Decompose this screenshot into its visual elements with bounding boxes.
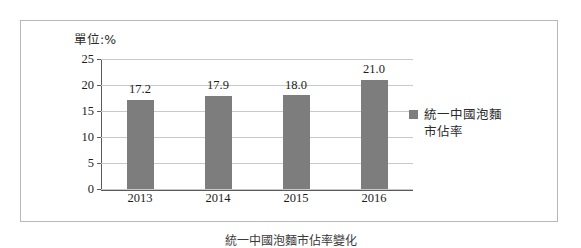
- legend-swatch-icon: [409, 110, 418, 119]
- y-tick-mark: [97, 189, 101, 190]
- y-tick-mark: [97, 59, 101, 60]
- y-tick-mark: [97, 163, 101, 164]
- bar-value-label: 17.2: [129, 83, 151, 96]
- y-tick-label: 5: [88, 157, 94, 170]
- x-tick-label: 2014: [206, 192, 231, 205]
- y-tick-label: 25: [82, 53, 95, 66]
- y-tick-mark: [97, 137, 101, 138]
- bar[interactable]: 17.2: [127, 100, 154, 189]
- figure-caption: 統一中國泡麵市佔率變化: [0, 231, 581, 248]
- plot-area: 2520151050 17.217.918.021.0 201320142015…: [101, 59, 413, 189]
- bar[interactable]: 17.9: [205, 96, 232, 189]
- bar-value-label: 18.0: [285, 79, 307, 92]
- unit-label: 單位:%: [74, 29, 116, 48]
- gridline: [101, 59, 413, 60]
- bar[interactable]: 18.0: [283, 95, 310, 189]
- y-tick-label: 0: [88, 183, 94, 196]
- x-tick-label: 2015: [284, 192, 309, 205]
- bar[interactable]: 21.0: [361, 80, 388, 189]
- gridline: [101, 189, 413, 190]
- y-tick-label: 20: [82, 79, 95, 92]
- y-tick-label: 15: [82, 105, 95, 118]
- chart-legend: 統一中國泡麵 市佔率: [409, 107, 502, 140]
- legend-label: 統一中國泡麵 市佔率: [424, 107, 502, 140]
- y-tick-label: 10: [82, 131, 95, 144]
- y-tick-mark: [97, 111, 101, 112]
- bar-value-label: 21.0: [363, 63, 385, 76]
- x-tick-label: 2013: [128, 192, 153, 205]
- bar-value-label: 17.9: [207, 79, 229, 92]
- y-axis-line: [101, 59, 102, 189]
- y-tick-mark: [97, 85, 101, 86]
- chart-figure-frame: 單位:% 2520151050 17.217.918.021.0 2013201…: [20, 20, 558, 222]
- x-tick-label: 2016: [362, 192, 387, 205]
